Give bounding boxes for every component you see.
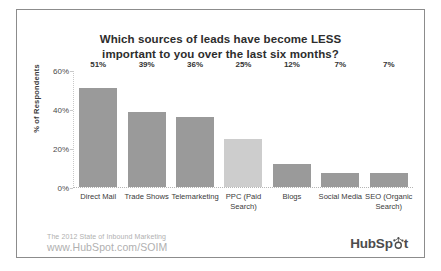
x-label-social-media: Social Media [316, 192, 364, 211]
hubspot-logo-text-after: t [404, 236, 408, 251]
x-label-direct-mail: Direct Mail [74, 192, 122, 211]
bar-value-trade-shows: 39% [122, 60, 170, 71]
footer-source-url[interactable]: www.HubSpot.com/SOIM [47, 241, 167, 253]
bar-slot-social-media: 7% [316, 71, 364, 187]
y-axis-title: % of Respondents [32, 44, 41, 154]
bar-ppc-paid-search[interactable] [224, 139, 262, 187]
y-tick-mark-0 [70, 188, 73, 189]
bar-slot-blogs: 12% [268, 71, 316, 187]
bar-value-ppc-paid-search: 25% [219, 60, 267, 71]
footer-source-title: The 2012 State of Inbound Marketing [47, 232, 167, 241]
bar-value-social-media: 7% [316, 60, 364, 71]
bar-value-direct-mail: 51% [74, 60, 122, 71]
bar-slot-trade-shows: 39% [122, 71, 170, 187]
y-tick-mark-40 [70, 110, 73, 111]
bar-direct-mail[interactable] [79, 88, 117, 187]
bar-social-media[interactable] [321, 173, 359, 187]
bar-telemarketing[interactable] [176, 117, 214, 187]
bar-seo-organic-search[interactable] [370, 173, 408, 187]
chart-title-line-1: Which sources of leads have become LESS [17, 32, 424, 47]
x-label-trade-shows: Trade Shows [122, 192, 170, 211]
bar-value-blogs: 12% [268, 60, 316, 71]
y-axis-tick-20: 20% [53, 145, 69, 154]
x-label-ppc-paid-search: PPC (Paid Search) [219, 192, 267, 211]
bar-slot-direct-mail: 51% [74, 71, 122, 187]
bar-group: 51% 39% 36% 25% 12% 7% [74, 71, 413, 187]
sprocket-icon [393, 236, 404, 250]
chart-frame: Which sources of leads have become LESS … [16, 9, 425, 258]
y-axis-tick-40: 40% [53, 105, 69, 114]
bar-slot-ppc-paid-search: 25% [219, 71, 267, 187]
x-label-blogs: Blogs [268, 192, 316, 211]
bar-slot-telemarketing: 36% [171, 71, 219, 187]
hubspot-logo: HubSp t [350, 236, 408, 251]
x-axis-line [73, 187, 413, 188]
plot-area: 0% 20% 40% 60% 51% 39% 36% 25% [73, 71, 413, 188]
hubspot-logo-text-before: HubSp [350, 236, 393, 251]
bar-value-seo-organic-search: 7% [365, 60, 413, 71]
bar-trade-shows[interactable] [128, 112, 166, 187]
bar-value-telemarketing: 36% [171, 60, 219, 71]
footer-source: The 2012 State of Inbound Marketing www.… [47, 232, 167, 253]
y-tick-mark-60 [70, 71, 73, 72]
y-tick-mark-20 [70, 149, 73, 150]
bar-slot-seo-organic-search: 7% [365, 71, 413, 187]
bar-blogs[interactable] [273, 164, 311, 187]
y-axis-tick-60: 60% [53, 67, 69, 76]
x-axis-labels: Direct Mail Trade Shows Telemarketing PP… [74, 192, 413, 211]
x-label-seo-organic-search: SEO (Organic Search) [365, 192, 413, 211]
x-label-telemarketing: Telemarketing [171, 192, 219, 211]
y-axis-tick-0: 0% [57, 184, 69, 193]
chart-title: Which sources of leads have become LESS … [17, 32, 424, 62]
